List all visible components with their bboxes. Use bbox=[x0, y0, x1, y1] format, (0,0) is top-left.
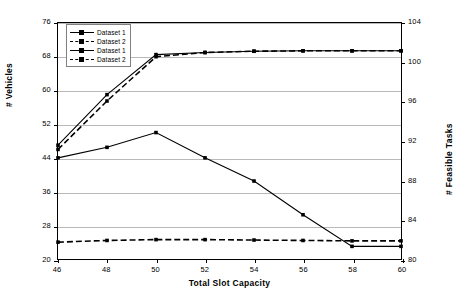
y-tick-label-right: 80 bbox=[408, 255, 438, 264]
data-point-marker bbox=[56, 143, 60, 147]
y-tick-right bbox=[401, 142, 405, 143]
y-tick-label-right: 88 bbox=[408, 176, 438, 185]
x-tick-label: 50 bbox=[142, 265, 170, 274]
x-tick bbox=[403, 259, 404, 263]
data-point-marker bbox=[252, 238, 256, 242]
data-point-marker bbox=[154, 55, 158, 59]
y-tick-label-left: 60 bbox=[21, 85, 51, 94]
y-tick-label-left: 44 bbox=[21, 153, 51, 162]
y-tick-right bbox=[401, 102, 405, 103]
x-tick bbox=[206, 259, 207, 263]
x-tick-label: 56 bbox=[289, 265, 317, 274]
legend: Dataset 1Dataset 2Dataset 1Dataset 2 bbox=[66, 24, 131, 67]
legend-swatch-solid bbox=[70, 46, 94, 54]
legend-swatch-solid bbox=[70, 28, 94, 36]
y-tick-label-right: 104 bbox=[408, 17, 438, 26]
y-tick-right bbox=[401, 23, 405, 24]
y-axis-left-title: # Vehicles bbox=[4, 63, 14, 107]
x-tick-label: 58 bbox=[339, 265, 367, 274]
x-tick-label: 54 bbox=[240, 265, 268, 274]
x-tick bbox=[58, 259, 59, 263]
x-tick bbox=[354, 259, 355, 263]
x-tick bbox=[107, 259, 108, 263]
x-tick bbox=[304, 259, 305, 263]
y-tick-label-right: 84 bbox=[408, 215, 438, 224]
x-tick-label: 60 bbox=[388, 265, 416, 274]
data-point-marker bbox=[203, 156, 207, 160]
data-point-marker bbox=[203, 51, 207, 55]
data-point-marker bbox=[399, 245, 403, 249]
data-point-marker bbox=[105, 239, 109, 243]
x-tick-label: 52 bbox=[191, 265, 219, 274]
x-tick-label: 48 bbox=[92, 265, 120, 274]
x-tick bbox=[255, 259, 256, 263]
data-point-marker bbox=[105, 93, 109, 97]
legend-item-3[interactable]: Dataset 2 bbox=[70, 55, 126, 63]
y-tick-right bbox=[401, 63, 405, 64]
line-chart: # Vehicles # Feasible Tasks Total Slot C… bbox=[0, 0, 459, 300]
x-axis-title: Total Slot Capacity bbox=[0, 278, 459, 288]
data-point-marker bbox=[301, 239, 305, 243]
y-tick-label-left: 28 bbox=[21, 221, 51, 230]
data-point-marker bbox=[56, 148, 60, 152]
series-line-3 bbox=[58, 240, 401, 243]
data-point-marker bbox=[154, 238, 158, 242]
data-point-marker bbox=[203, 238, 207, 242]
x-tick-label: 46 bbox=[43, 265, 71, 274]
legend-item-1[interactable]: Dataset 2 bbox=[70, 37, 126, 45]
data-point-marker bbox=[154, 131, 158, 135]
legend-label: Dataset 2 bbox=[97, 56, 126, 63]
legend-label: Dataset 1 bbox=[97, 29, 126, 36]
legend-label: Dataset 2 bbox=[97, 38, 126, 45]
data-point-marker bbox=[252, 179, 256, 183]
data-point-marker bbox=[105, 99, 109, 103]
y-tick-label-right: 96 bbox=[408, 96, 438, 105]
y-tick-label-right: 92 bbox=[408, 136, 438, 145]
data-point-marker bbox=[301, 213, 305, 217]
y-tick-right bbox=[401, 221, 405, 222]
legend-swatch-dashed bbox=[70, 37, 94, 45]
data-point-marker bbox=[399, 239, 403, 243]
data-point-marker bbox=[105, 146, 109, 150]
series-line-2 bbox=[58, 133, 401, 247]
x-tick bbox=[157, 259, 158, 263]
data-point-marker bbox=[350, 245, 354, 249]
y-tick-label-left: 68 bbox=[21, 51, 51, 60]
legend-swatch-dashed bbox=[70, 55, 94, 63]
legend-item-0[interactable]: Dataset 1 bbox=[70, 28, 126, 36]
data-point-marker bbox=[252, 49, 256, 53]
data-point-marker bbox=[56, 240, 60, 244]
data-point-marker bbox=[56, 156, 60, 160]
y-tick-label-left: 76 bbox=[21, 17, 51, 26]
y-axis-right-title: # Feasible Tasks bbox=[444, 123, 454, 195]
y-tick-label-right: 100 bbox=[408, 57, 438, 66]
data-point-marker bbox=[301, 49, 305, 53]
y-tick-label-left: 36 bbox=[21, 187, 51, 196]
data-point-marker bbox=[350, 239, 354, 243]
legend-label: Dataset 1 bbox=[97, 47, 126, 54]
y-tick-right bbox=[401, 182, 405, 183]
y-tick-label-left: 20 bbox=[21, 255, 51, 264]
legend-item-2[interactable]: Dataset 1 bbox=[70, 46, 126, 54]
data-point-marker bbox=[399, 49, 403, 53]
data-point-marker bbox=[350, 49, 354, 53]
y-tick-label-left: 52 bbox=[21, 119, 51, 128]
